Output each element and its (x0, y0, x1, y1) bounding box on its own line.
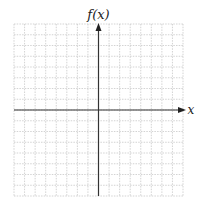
coordinate-grid: f(x) x (0, 0, 200, 207)
axes (14, 23, 186, 196)
x-axis-arrow-icon (178, 107, 186, 113)
x-axis-label: x (188, 103, 195, 117)
y-axis-label: f(x) (86, 7, 109, 22)
